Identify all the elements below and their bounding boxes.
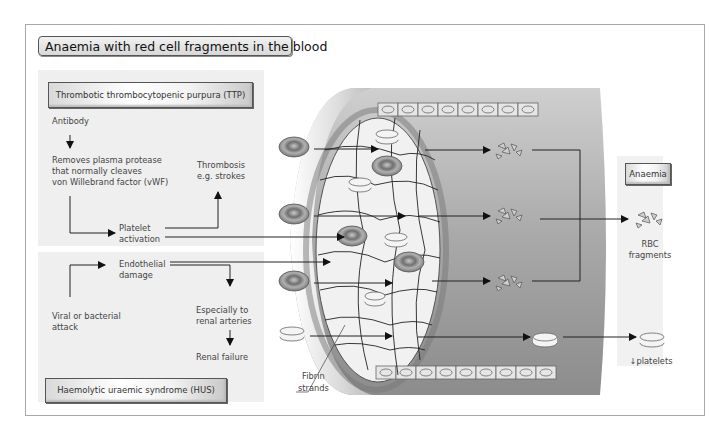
viral-attack-label-1: Viral or bacterial [52,311,121,322]
endothelial-damage-label-2: damage [119,270,153,281]
renal-arteries-label-1: Especially to [196,305,248,316]
removes-protease-label-3: von Willebrand factor (vWF) [52,177,168,188]
platelet-activation-label-2: activation [119,234,160,245]
rbc-fragments-label-2: fragments [628,250,672,261]
renal-arteries-label-2: renal arteries [196,316,252,327]
thrombosis-label-1: Thrombosis [197,160,245,171]
rbc-fragments-label-1: RBC [628,239,672,250]
platelet-activation-label-1: Platelet [119,223,150,234]
hus-heading: Haemolytic uraemic syndrome (HUS) [45,378,227,403]
ttp-heading: Thrombotic thrombocytopenic purpura (TTP… [48,82,253,108]
endothelial-damage-label-1: Endothelial [119,259,165,270]
removes-protease-label-2: that normally cleaves [52,166,142,177]
removes-protease-label-1: Removes plasma protease [52,155,162,166]
anaemia-heading: Anaemia [625,163,671,185]
platelets-decrease-label: ↓platelets [626,356,676,367]
thrombosis-label-2: e.g. strokes [197,171,245,182]
antibody-label: Antibody [52,116,89,127]
viral-attack-label-2: attack [52,322,78,333]
renal-failure-label: Renal failure [196,352,248,363]
fibrin-strands-label-1: Fibrin [302,371,325,382]
fibrin-strands-label-2: strands [298,383,329,394]
